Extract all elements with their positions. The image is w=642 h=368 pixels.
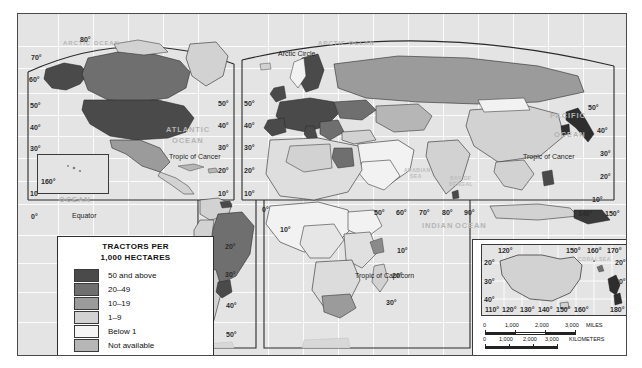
longitude-label: 80° <box>442 209 453 216</box>
arctic-circle-label: Arctic Circle <box>278 50 315 57</box>
longitude-label: 180° <box>610 306 624 313</box>
latitude-label: 40° <box>597 127 608 134</box>
scale-tick-label: 0 <box>483 322 486 328</box>
latitude-label: 30° <box>244 144 255 151</box>
latitude-label: 30° <box>600 150 611 157</box>
scale-tick-label: 3,000 <box>545 336 559 342</box>
latitude-label: 30° <box>484 278 495 285</box>
scale-tick-label: 1,000 <box>505 322 519 328</box>
latitude-label: 20° <box>615 259 626 266</box>
legend-swatch-below-1 <box>74 325 99 338</box>
sea-label: CORAL <box>578 257 598 262</box>
longitude-label: 130° <box>520 306 534 313</box>
latitude-label: 50° <box>588 104 599 111</box>
map-frame: ARCTIC OCEAN ARCTIC OCEAN ATLANTIC OCEAN… <box>17 13 627 356</box>
latitude-label: 40° <box>226 302 237 309</box>
legend-item: 20–49 <box>74 283 213 297</box>
latitude-label: 70° <box>31 54 42 61</box>
legend-label: 10–19 <box>108 299 130 308</box>
legend-title: TRACTORS PER 1,000 HECTARES <box>58 237 213 264</box>
legend-item: Not available <box>74 339 213 353</box>
longitude-label: 70° <box>419 209 430 216</box>
scale-tick-label: 2,000 <box>535 322 549 328</box>
ocean-label: ARCTIC OCEAN <box>63 40 120 46</box>
ocean-label: INDIAN <box>422 222 453 230</box>
latitude-label: 20° <box>225 243 236 250</box>
latitude-label: 30° <box>218 144 229 151</box>
latitude-label: 20° <box>244 167 255 174</box>
legend-item: Below 1 <box>74 325 213 339</box>
ocean-label: OCEAN <box>59 196 91 204</box>
scale-unit-kilometers: KILOMETERS <box>569 336 604 342</box>
ocean-label: OCEAN <box>172 137 204 145</box>
scale-tick-label: 0 <box>483 336 486 342</box>
sea-label: BENGAL <box>449 182 473 187</box>
legend-item: 10–19 <box>74 297 213 311</box>
latitude-label: 10° <box>218 190 229 197</box>
ocean-label: OCEAN <box>554 131 586 139</box>
latitude-label: 20° <box>600 173 611 180</box>
longitude-label: 50° <box>374 209 385 216</box>
latitude-label: 0° <box>31 213 38 220</box>
legend-item: 50 and above <box>74 269 213 283</box>
legend-item: 1–9 <box>74 311 213 325</box>
legend-swatch-50-and-above <box>74 269 99 282</box>
australia-inset: 120° 150° 160° 170° 20° 30° 40° 20° 30° … <box>472 239 627 356</box>
latitude-label: 50° <box>218 100 229 107</box>
tropic-cancer-label: Tropic of Cancer <box>169 153 220 160</box>
legend-title-line1: TRACTORS PER <box>58 242 213 253</box>
latitude-label: 40° <box>30 124 41 131</box>
longitude-label: 160° <box>587 247 601 254</box>
longitude-label: 170° <box>607 247 621 254</box>
longitude-label: 90° <box>464 209 475 216</box>
equator-label: Equator <box>72 212 97 219</box>
latitude-label: 30° <box>30 145 41 152</box>
latitude-label: 10° <box>397 247 408 254</box>
legend-label: Not available <box>108 341 154 350</box>
longitude-label: 110° <box>485 306 499 313</box>
latitude-label: 10° <box>592 196 603 203</box>
map-legend: TRACTORS PER 1,000 HECTARES 50 and above… <box>57 236 214 356</box>
legend-swatch-1-9 <box>74 311 99 324</box>
legend-swatch-not-available <box>74 339 99 352</box>
latitude-label: 50° <box>244 100 255 107</box>
scale-tick-label: 1,000 <box>499 336 513 342</box>
legend-rows: 50 and above 20–49 10–19 1–9 Below 1 <box>74 269 213 353</box>
australia-inset-map: 120° 150° 160° 170° 20° 30° 40° 20° 30° … <box>481 244 627 316</box>
latitude-label: 20° <box>392 272 403 279</box>
longitude-label: 160° <box>574 306 588 313</box>
legend-label: 1–9 <box>108 313 121 322</box>
legend-swatch-10-19 <box>74 297 99 310</box>
hawaii-inset: 160° <box>37 154 109 194</box>
latitude-label: 20° <box>218 167 229 174</box>
longitude-label: 120° <box>498 247 512 254</box>
latitude-label: 30° <box>615 278 626 285</box>
latitude-label: 60° <box>29 76 40 83</box>
latitude-label: 50° <box>226 331 237 338</box>
tropic-capricorn-label: Tropic of Capricorn <box>355 272 414 279</box>
latitude-label: 40° <box>484 296 495 303</box>
latitude-label: 40° <box>218 122 229 129</box>
latitude-label: 80° <box>80 36 91 43</box>
legend-label: Below 1 <box>108 327 136 336</box>
longitude-label: 140° <box>578 210 592 217</box>
longitude-label: 60° <box>396 209 407 216</box>
longitude-label: 150° <box>566 247 580 254</box>
scale-unit-miles: MILES <box>586 322 603 328</box>
scale-tick-label: 2,000 <box>523 336 537 342</box>
latitude-label: 30° <box>386 299 397 306</box>
world-map-figure: ARCTIC OCEAN ARCTIC OCEAN ATLANTIC OCEAN… <box>0 0 642 368</box>
legend-label: 50 and above <box>108 271 157 280</box>
latitude-label: 40° <box>244 122 255 129</box>
latitude-label: 10° <box>244 190 255 197</box>
tropic-cancer-label: Tropic of Cancer <box>523 153 574 160</box>
ocean-label: PACIFIC <box>550 112 586 120</box>
legend-title-line2: 1,000 HECTARES <box>58 253 213 264</box>
longitude-label: 120° <box>502 306 516 313</box>
longitude-label: 140° <box>538 306 552 313</box>
legend-label: 20–49 <box>108 285 130 294</box>
longitude-label: 150° <box>605 210 619 217</box>
longitude-label: 150° <box>556 306 570 313</box>
legend-swatch-20-49 <box>74 283 99 296</box>
ocean-label: ATLANTIC <box>166 126 210 134</box>
